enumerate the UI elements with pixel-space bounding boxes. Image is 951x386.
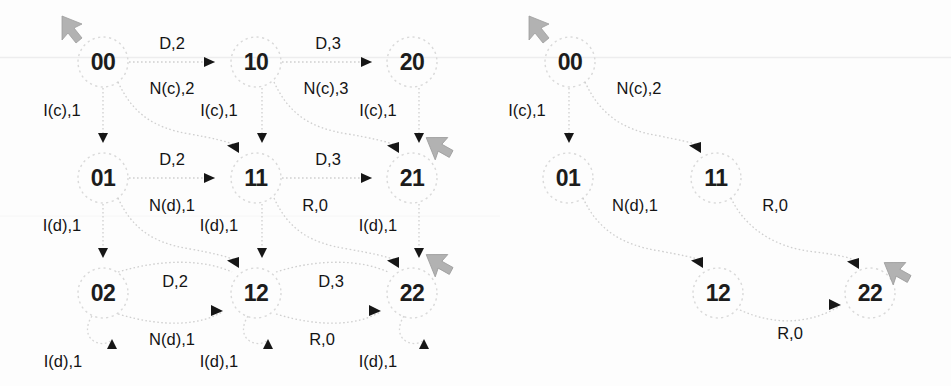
cursor-marker-left-start-icon	[62, 16, 82, 43]
self-loop-22[interactable]	[399, 316, 424, 344]
edge-label-l02-l02-16: I(d),1	[44, 352, 83, 371]
node-label-l02[interactable]: 02	[91, 280, 116, 307]
cursor-marker-left-22-icon	[426, 247, 455, 280]
edge-label-l01-l02-9: I(d),1	[43, 216, 82, 235]
pointer-markers	[62, 16, 913, 288]
node-label-l11[interactable]: 11	[244, 165, 267, 192]
edge-label-l12-l12-17: I(d),1	[200, 352, 239, 371]
node-label-r12[interactable]: 12	[706, 280, 731, 307]
node-label-l01[interactable]: 01	[91, 165, 116, 192]
edge-label-l01-l12-14: N(d),1	[149, 196, 195, 215]
self-loop-02[interactable]	[87, 316, 112, 344]
edge-label-l12-l22-5: D,3	[318, 272, 344, 291]
node-label-l21[interactable]: 21	[400, 165, 425, 192]
left-graph-self-loops	[87, 316, 424, 344]
self-loop-12[interactable]	[243, 316, 268, 344]
node-label-l00[interactable]: 00	[91, 49, 116, 76]
edge-12-22[interactable]	[276, 312, 380, 323]
edge-r11-r22[interactable]	[731, 198, 858, 262]
edge-label-l02-l12-4: D,2	[162, 272, 188, 291]
edge-label-l22-l22-18: I(d),1	[359, 352, 398, 371]
edge-r12-r22[interactable]	[740, 306, 840, 321]
edge-label-r11-r22-3: R,0	[762, 196, 788, 215]
edge-label-l11-l12-10: I(d),1	[200, 216, 239, 235]
node-label-r01[interactable]: 01	[556, 165, 581, 192]
edge-label-l00-l10-0: D,2	[159, 34, 185, 53]
edge-label-r00-r01-0: I(c),1	[508, 101, 546, 120]
edge-label-l10-l20-1: D,3	[315, 34, 341, 53]
edge-label-r00-r11-1: N(c),2	[617, 79, 662, 98]
edge-label-l00-l11-12: N(c),2	[150, 79, 195, 98]
node-label-l12[interactable]: 12	[244, 280, 269, 307]
cursor-marker-left-21-icon	[426, 130, 455, 163]
node-label-r11[interactable]: 11	[704, 165, 727, 192]
edge-label-r01-r12-2: N(d),1	[612, 196, 658, 215]
edge-label-l20-l21-8: I(c),1	[359, 101, 397, 120]
edge-label-l10-l11-7: I(c),1	[200, 101, 238, 120]
state-diagram-canvas	[0, 0, 951, 386]
edge-label-l01-l11-2: D,2	[159, 150, 185, 169]
edge-02-12[interactable]	[118, 312, 222, 323]
edge-label-l12-l22-20: R,0	[309, 330, 335, 349]
cursor-marker-right-start-icon	[529, 16, 549, 43]
node-label-l10[interactable]: 10	[244, 49, 269, 76]
edge-label-l11-l21-3: D,3	[315, 150, 341, 169]
cursor-marker-right-22-icon	[884, 255, 913, 288]
edge-label-r12-r22-4: R,0	[777, 324, 803, 343]
edge-label-l02-l12-19: N(d),1	[149, 330, 195, 349]
edge-label-l21-l22-11: I(d),1	[359, 216, 398, 235]
node-label-l22[interactable]: 22	[400, 280, 425, 307]
edge-label-l11-l22-15: R,0	[302, 196, 328, 215]
node-label-r00[interactable]: 00	[558, 49, 583, 76]
edge-label-l10-l21-13: N(c),3	[304, 79, 349, 98]
edge-label-l00-l01-6: I(c),1	[43, 101, 81, 120]
node-label-r22[interactable]: 22	[858, 280, 883, 307]
node-label-l20[interactable]: 20	[400, 49, 425, 76]
